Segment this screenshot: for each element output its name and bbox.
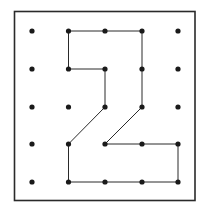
- numeral-two-polygon: [69, 31, 179, 182]
- peg-dot: [66, 141, 71, 146]
- peg-dot: [102, 28, 107, 33]
- peg-dot: [175, 66, 180, 71]
- peg-dot: [139, 28, 144, 33]
- peg-dot: [139, 104, 144, 109]
- peg-dot: [139, 141, 144, 146]
- peg-dot: [66, 28, 71, 33]
- geoboard-diagram: [0, 0, 203, 210]
- peg-dot: [29, 104, 34, 109]
- peg-grid: [29, 28, 180, 184]
- peg-dot: [102, 66, 107, 71]
- peg-dot: [175, 104, 180, 109]
- peg-dot: [102, 179, 107, 184]
- peg-dot: [175, 179, 180, 184]
- peg-dot: [66, 104, 71, 109]
- peg-dot: [29, 141, 34, 146]
- peg-dot: [102, 104, 107, 109]
- peg-dot: [102, 141, 107, 146]
- peg-dot: [29, 28, 34, 33]
- peg-dot: [175, 141, 180, 146]
- peg-dot: [66, 179, 71, 184]
- peg-dot: [29, 66, 34, 71]
- peg-dot: [175, 28, 180, 33]
- peg-dot: [66, 66, 71, 71]
- peg-dot: [139, 66, 144, 71]
- peg-dot: [139, 179, 144, 184]
- peg-dot: [29, 179, 34, 184]
